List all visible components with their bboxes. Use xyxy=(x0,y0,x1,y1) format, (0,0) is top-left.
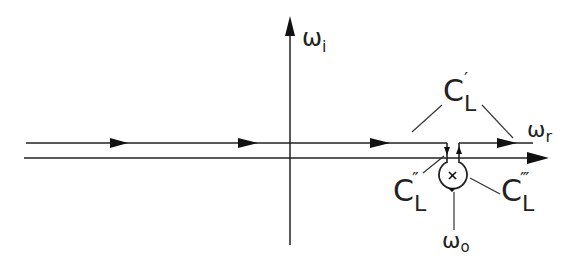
contour-line-CL-prime xyxy=(26,138,533,148)
pole-label: ωo xyxy=(442,230,470,252)
contour-diagram xyxy=(0,0,581,269)
real-axis-label: ωr xyxy=(527,119,552,141)
imaginary-axis-label: ωi xyxy=(302,26,327,50)
pole-marker-icon xyxy=(449,172,456,179)
leader-lines xyxy=(412,105,513,230)
real-axis xyxy=(24,152,549,164)
keyhole-contour xyxy=(439,143,467,192)
label-CL-prime: CL′ xyxy=(443,76,476,106)
label-CL-double-prime: CL″ xyxy=(393,176,426,206)
imaginary-axis xyxy=(285,16,295,245)
label-CL-triple-prime: CL‴ xyxy=(501,176,534,206)
